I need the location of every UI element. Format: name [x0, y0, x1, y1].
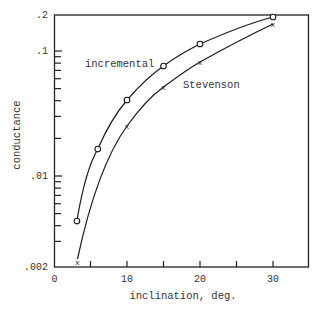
conductance-chart: .2 .1 .01 .002 0 10 20 30 inclination, d…: [0, 0, 323, 314]
incremental-point: [197, 41, 203, 47]
stevenson-point: x: [198, 58, 203, 67]
incremental-point: [270, 14, 276, 20]
stevenson-point: x: [161, 83, 166, 92]
x-axis-label: inclination, deg.: [129, 290, 236, 302]
x-tick-label-0: 0: [51, 274, 57, 285]
y-tick-label-0.2: .2: [36, 10, 48, 21]
incremental-point: [95, 146, 101, 152]
incremental-point: [161, 63, 167, 69]
stevenson-label: Stevenson: [183, 79, 240, 91]
incremental-markers: [74, 14, 276, 224]
incremental-label: incremental: [85, 58, 154, 70]
plot-frame: [55, 15, 309, 267]
incremental-point: [124, 97, 130, 103]
x-axis-ticks: [91, 261, 274, 267]
stevenson-point: x: [125, 122, 130, 131]
y-axis-label: conductance: [11, 100, 23, 169]
y-axis-ticks: [55, 51, 63, 241]
stevenson-point: x: [271, 20, 276, 29]
incremental-curve: [77, 17, 273, 221]
y-tick-label-0.01: .01: [30, 171, 48, 182]
incremental-point: [74, 218, 80, 224]
x-tick-label-30: 30: [267, 274, 279, 285]
y-tick-label-0.002: .002: [24, 262, 48, 273]
x-tick-label-20: 20: [194, 274, 206, 285]
x-tick-label-10: 10: [121, 274, 133, 285]
stevenson-point: x: [75, 258, 80, 267]
y-tick-label-0.1: .1: [36, 46, 48, 57]
